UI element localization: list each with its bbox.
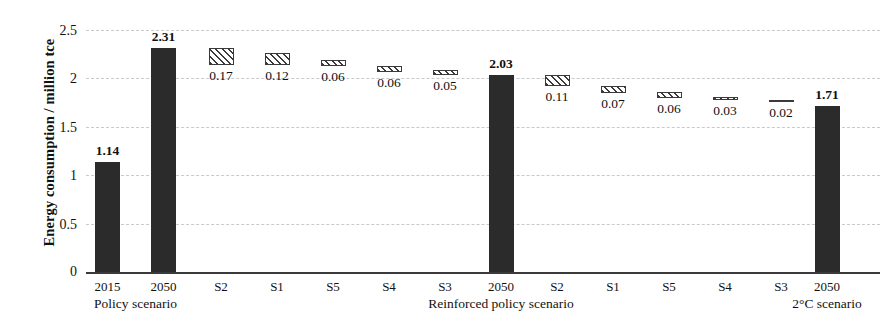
gridline-2-5: 2.5: [86, 30, 880, 31]
gridline-0: 0: [86, 272, 880, 274]
y-tick-label: 1: [70, 168, 77, 184]
y-tick-label: 1.5: [60, 120, 78, 136]
bar-s3-12: [769, 100, 794, 103]
y-tick-label: 2.5: [60, 23, 78, 39]
bar-value-label: 0.06: [377, 75, 401, 91]
x-tick-label: 2015: [95, 279, 121, 295]
bar-2050-13: [815, 106, 840, 272]
bar-value-label: 1.71: [815, 87, 839, 103]
bar-s5-4: [321, 60, 346, 66]
gridline-0-5: 0.5: [86, 224, 880, 225]
x-tick-label: S2: [214, 279, 228, 295]
x-tick-label: S1: [606, 279, 620, 295]
x-tick-label: 2050: [151, 279, 177, 295]
bar-value-label: 0.06: [321, 69, 345, 85]
bar-s5-10: [657, 92, 682, 98]
group-label: Policy scenario: [94, 296, 177, 312]
bar-s4-11: [713, 97, 738, 100]
y-axis-title: Energy consumption / million tce: [41, 8, 58, 278]
group-label: 2°C scenario: [792, 296, 862, 312]
bar-value-label: 0.07: [601, 96, 625, 112]
y-tick-label: 2: [70, 71, 77, 87]
y-tick-label: 0: [70, 264, 77, 280]
group-label: Reinforced policy scenario: [428, 296, 573, 312]
gridline-1-5: 1.5: [86, 127, 880, 128]
bar-value-label: 0.03: [713, 103, 737, 119]
x-tick-label: S5: [662, 279, 676, 295]
bar-s2-8: [545, 75, 570, 86]
x-tick-label: S1: [270, 279, 284, 295]
bar-s1-3: [265, 53, 290, 65]
bar-value-label: 2.03: [489, 56, 513, 72]
bar-2050-7: [489, 75, 514, 272]
x-tick-label: 2050: [814, 279, 840, 295]
x-tick-label: S2: [550, 279, 564, 295]
bar-value-label: 0.11: [545, 89, 568, 105]
plot-area: 00.511.522.5 1.142.310.170.120.060.060.0…: [86, 30, 880, 272]
y-tick-label: 0.5: [60, 217, 78, 233]
bar-s4-5: [377, 66, 402, 72]
x-tick-label: S4: [718, 279, 732, 295]
bar-value-label: 0.06: [657, 101, 681, 117]
x-tick-label: S3: [438, 279, 452, 295]
x-tick-label: S3: [774, 279, 788, 295]
bar-2015-0: [95, 162, 120, 272]
chart-figure: Energy consumption / million tce 00.511.…: [0, 0, 891, 328]
bar-s1-9: [601, 86, 626, 93]
bar-value-label: 2.31: [152, 29, 176, 45]
gridline-2: 2: [86, 78, 880, 79]
bar-s2-2: [209, 48, 234, 64]
bar-value-label: 0.17: [209, 68, 233, 84]
bar-value-label: 1.14: [96, 143, 120, 159]
x-tick-label: S5: [326, 279, 340, 295]
x-tick-label: S4: [382, 279, 396, 295]
bar-value-label: 0.05: [433, 78, 457, 94]
bar-s3-6: [433, 70, 458, 75]
bar-value-label: 0.12: [265, 68, 289, 84]
x-tick-label: 2050: [488, 279, 514, 295]
bar-2050-1: [151, 48, 176, 272]
bar-value-label: 0.02: [769, 105, 793, 121]
gridline-1: 1: [86, 175, 880, 176]
